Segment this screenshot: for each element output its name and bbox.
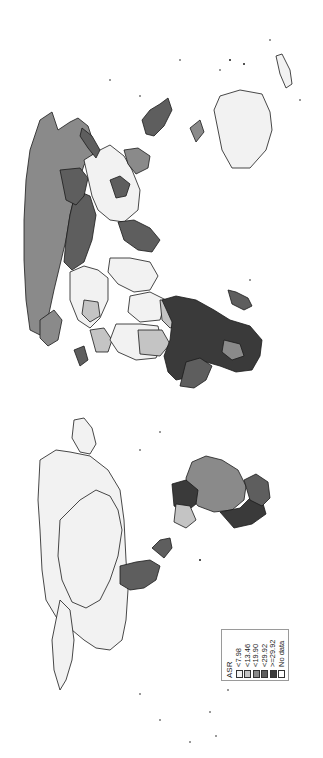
region-new-zealand <box>276 54 292 88</box>
legend-content: ASR <7.98 <13.46 <19.90 <29.92 >=29.92 <box>222 630 290 682</box>
legend-swatch <box>278 670 285 678</box>
legend-swatch <box>244 670 251 678</box>
region-colombia <box>174 504 196 528</box>
region-philippines <box>190 120 204 142</box>
map-legend: ASR <7.98 <13.46 <19.90 <29.92 >=29.92 <box>221 629 289 681</box>
legend-swatch <box>261 670 268 678</box>
legend-swatch <box>236 670 243 678</box>
legend-label: No data <box>278 641 286 667</box>
region-greenland <box>72 418 96 454</box>
region-central-america <box>152 538 172 558</box>
region-australia <box>214 90 272 168</box>
region-western-europe <box>90 328 112 352</box>
region-indonesia <box>142 98 172 136</box>
region-uk <box>74 346 88 366</box>
legend-swatch <box>270 670 277 678</box>
region-madagascar <box>228 290 252 310</box>
legend-title: ASR <box>225 634 234 678</box>
region-mexico <box>120 560 160 590</box>
legend-item: No data <box>278 634 287 678</box>
region-middle-east <box>108 258 158 292</box>
region-india <box>118 220 160 252</box>
world-choropleth-map: ASR <7.98 <13.46 <19.90 <29.92 >=29.92 <box>0 0 323 758</box>
legend-swatch <box>253 670 260 678</box>
